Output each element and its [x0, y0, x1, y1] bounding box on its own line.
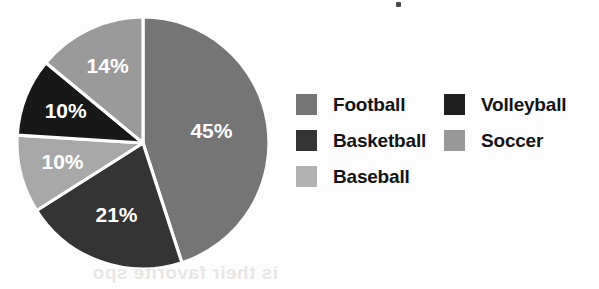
legend: FootballBasketballBaseball VolleyballSoc… — [296, 86, 596, 206]
legend-swatch-basketball — [296, 130, 317, 151]
legend-column-left: FootballBasketballBaseball — [296, 86, 426, 194]
page-scan-artifact-mark — [396, 2, 401, 7]
legend-label-soccer: Soccer — [481, 131, 543, 150]
pie-chart: 45%21%10%10%14% — [14, 14, 272, 272]
legend-swatch-baseball — [296, 166, 317, 187]
legend-item-baseball[interactable]: Baseball — [296, 158, 426, 194]
pie-slice-value-basketball: 21% — [95, 203, 137, 226]
pie-chart-figure: 45%21%10%10%14% FootballBasketballBaseba… — [0, 0, 599, 289]
legend-item-football[interactable]: Football — [296, 86, 426, 122]
legend-swatch-football — [296, 94, 317, 115]
legend-label-baseball: Baseball — [333, 167, 410, 186]
pie-slice-value-volleyball: 10% — [45, 99, 87, 122]
legend-swatch-soccer — [444, 130, 465, 151]
legend-label-football: Football — [333, 95, 405, 114]
legend-label-basketball: Basketball — [333, 131, 426, 150]
legend-item-basketball[interactable]: Basketball — [296, 122, 426, 158]
legend-label-volleyball: Volleyball — [481, 95, 566, 114]
pie-slice-group — [17, 17, 269, 269]
pie-slice-value-soccer: 14% — [87, 54, 129, 77]
pie-slice-value-football: 45% — [190, 119, 232, 142]
legend-column-right: VolleyballSoccer — [444, 86, 566, 158]
pie-chart-svg: 45%21%10%10%14% — [14, 14, 272, 272]
pie-slice-value-baseball: 10% — [41, 150, 83, 173]
legend-item-soccer[interactable]: Soccer — [444, 122, 566, 158]
legend-item-volleyball[interactable]: Volleyball — [444, 86, 566, 122]
legend-swatch-volleyball — [444, 94, 465, 115]
